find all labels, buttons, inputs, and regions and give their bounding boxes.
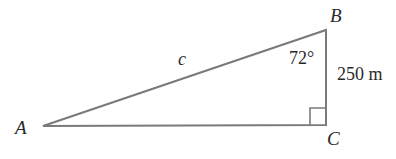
vertex-label-b: B (330, 6, 342, 25)
triangle-abc (43, 30, 326, 126)
vertex-label-a: A (15, 118, 27, 137)
angle-b-label: 72° (289, 49, 314, 67)
right-angle-marker (310, 108, 326, 125)
triangle-diagram: A B C c 72° 250 m (0, 0, 396, 159)
vertex-label-c: C (327, 129, 340, 148)
side-bc-length-label: 250 m (337, 65, 383, 83)
hypotenuse-label: c (178, 50, 186, 68)
